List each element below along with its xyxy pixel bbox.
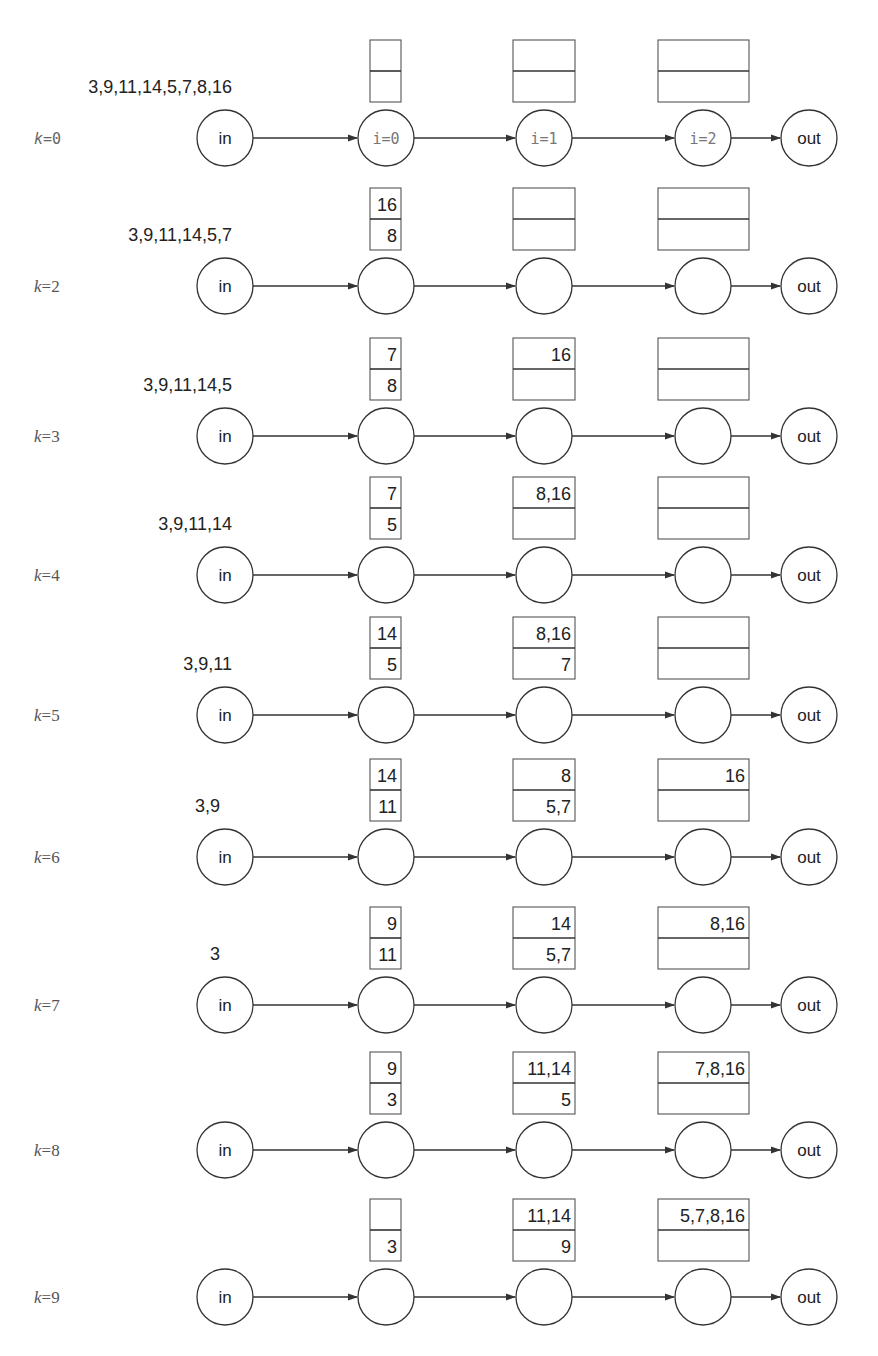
- step-label: k=3: [34, 427, 60, 446]
- step-value: =2: [42, 277, 60, 296]
- stage-node-0: [358, 547, 414, 603]
- node-circle-icon: [675, 547, 731, 603]
- input-node: in: [197, 829, 253, 885]
- buffer-top-value: 5,7,8,16: [680, 1206, 745, 1226]
- node-label: in: [218, 1141, 231, 1160]
- step-value: =8: [42, 1141, 60, 1160]
- stage-node-0: [358, 977, 414, 1033]
- node-label: in: [218, 848, 231, 867]
- buffer-top-value: 9: [387, 1059, 397, 1079]
- stage-node-2: [675, 977, 731, 1033]
- buffer-bottom-value: 5,7: [546, 797, 571, 817]
- node-circle-icon: [358, 547, 414, 603]
- buffer-stage-0: 168: [370, 188, 401, 250]
- step-value: =0: [43, 130, 61, 148]
- input-node: in: [197, 547, 253, 603]
- buffer-bottom-value: 5: [387, 515, 397, 535]
- node-circle-icon: [358, 829, 414, 885]
- stage-node-0: [358, 829, 414, 885]
- buffer-stage-1: 11,149: [513, 1199, 575, 1261]
- node-circle-icon: [516, 977, 572, 1033]
- input-sequence: 3,9,11,14,5: [143, 375, 232, 395]
- buffer-stage-2: 16: [658, 759, 749, 821]
- stage-node-2: [675, 687, 731, 743]
- stage-node-0: [358, 687, 414, 743]
- input-node: in: [197, 977, 253, 1033]
- node-circle-icon: [675, 687, 731, 743]
- node-label: out: [797, 706, 821, 725]
- buffer-top-value: 7: [387, 484, 397, 504]
- node-label: out: [797, 848, 821, 867]
- step-label: k=4: [34, 566, 60, 585]
- buffer-top-value: 14: [377, 766, 397, 786]
- node-label: out: [797, 996, 821, 1015]
- stage-node-2: [675, 258, 731, 314]
- node-label: out: [797, 1141, 821, 1160]
- buffer-stage-1: 145,7: [513, 907, 575, 969]
- buffer-bottom-value: 11: [378, 797, 397, 817]
- input-node: in: [197, 1269, 253, 1325]
- step-variable: k: [34, 130, 43, 148]
- buffer-bottom-value: 8: [387, 376, 397, 396]
- node-circle-icon: [516, 1122, 572, 1178]
- input-node: in: [197, 258, 253, 314]
- stage-node-0: [358, 258, 414, 314]
- stage-node-1: [516, 977, 572, 1033]
- node-label: out: [797, 566, 821, 585]
- node-circle-icon: [358, 1122, 414, 1178]
- input-sequence: 3,9,11: [183, 654, 232, 674]
- stage-node-2: [675, 1122, 731, 1178]
- node-label: out: [797, 1288, 821, 1307]
- step-label: k=8: [34, 1141, 60, 1160]
- merge-sort-pipeline-diagram: k=03,9,11,14,5,7,8,16ini=0i=1i=2outk=23,…: [0, 0, 878, 1356]
- buffer-top-value: 16: [551, 345, 571, 365]
- output-node: out: [781, 547, 837, 603]
- stage-node-1: [516, 1122, 572, 1178]
- output-node: out: [781, 110, 837, 166]
- buffer-top-value: 8,16: [710, 914, 745, 934]
- node-circle-icon: [516, 408, 572, 464]
- node-circle-icon: [516, 829, 572, 885]
- buffer-bottom-value: 3: [387, 1237, 397, 1257]
- step-value: =3: [42, 427, 60, 446]
- stage-node-1: [516, 687, 572, 743]
- buffer-stage-1: 8,16: [513, 477, 575, 539]
- buffer-top-value: 14: [551, 914, 571, 934]
- node-circle-icon: [675, 1122, 731, 1178]
- stage-node-1: [516, 1269, 572, 1325]
- pipeline-row-k6: k=63,9inout141185,716: [34, 759, 837, 885]
- buffer-stage-1: 11,145: [513, 1052, 575, 1114]
- node-label: i=2: [689, 130, 716, 148]
- buffer-stage-0: 93: [370, 1052, 401, 1114]
- pipeline-row-k3: k=33,9,11,14,5inout7816: [34, 338, 837, 464]
- buffer-top-value: 9: [387, 914, 397, 934]
- buffer-bottom-value: 3: [387, 1090, 397, 1110]
- buffer-top-value: 16: [725, 766, 745, 786]
- node-label: out: [797, 277, 821, 296]
- output-node: out: [781, 1269, 837, 1325]
- output-node: out: [781, 977, 837, 1033]
- input-sequence: 3,9,11,14,5,7: [128, 225, 232, 245]
- buffer-bottom-value: 9: [561, 1237, 571, 1257]
- stage-node-1: [516, 547, 572, 603]
- step-label: k=0: [34, 130, 61, 148]
- stage-node-0: i=0: [358, 110, 414, 166]
- step-label: k=7: [34, 996, 60, 1015]
- node-label: out: [797, 129, 821, 148]
- node-circle-icon: [516, 687, 572, 743]
- buffer-top-value: 8,16: [536, 624, 571, 644]
- buffer-top-value: 8,16: [536, 484, 571, 504]
- buffer-bottom-value: 11: [378, 945, 397, 965]
- stage-node-1: i=1: [516, 110, 572, 166]
- buffer-top-value: 8: [561, 766, 571, 786]
- node-label: in: [218, 1288, 231, 1307]
- node-label: out: [797, 427, 821, 446]
- buffer-bottom-value: 7: [561, 655, 571, 675]
- buffer-top-value: 7,8,16: [695, 1059, 745, 1079]
- pipeline-row-k5: k=53,9,11inout1458,167: [34, 617, 837, 743]
- pipeline-row-k2: k=23,9,11,14,5,7inout168: [34, 188, 837, 314]
- step-value: =5: [42, 706, 60, 725]
- stage-node-2: [675, 408, 731, 464]
- step-label: k=2: [34, 277, 60, 296]
- node-label: in: [218, 427, 231, 446]
